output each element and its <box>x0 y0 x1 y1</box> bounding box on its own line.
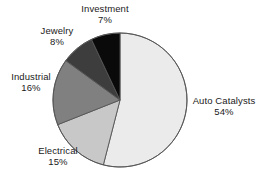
pie-label-auto-catalysts: Auto Catalysts 54% <box>182 95 266 117</box>
pie-label-industrial-percent: 16% <box>0 82 62 93</box>
pie-label-jewelry-name: Jewelry <box>23 25 91 36</box>
pie-label-jewelry: Jewelry 8% <box>23 25 91 47</box>
pie-label-jewelry-percent: 8% <box>23 36 91 47</box>
pie-label-investment-name: Investment <box>62 3 148 14</box>
pie-chart: Investment 7% Jewelry 8% Industrial 16% … <box>0 0 266 182</box>
pie-label-electrical: Electrical 15% <box>22 145 94 167</box>
pie-label-auto-catalysts-name: Auto Catalysts <box>182 95 266 106</box>
pie-label-industrial-name: Industrial <box>0 71 62 82</box>
pie-label-auto-catalysts-percent: 54% <box>182 106 266 117</box>
pie-label-electrical-percent: 15% <box>22 156 94 167</box>
pie-label-electrical-name: Electrical <box>22 145 94 156</box>
pie-label-investment-percent: 7% <box>62 14 148 25</box>
pie-label-investment: Investment 7% <box>62 3 148 25</box>
pie-label-industrial: Industrial 16% <box>0 71 62 93</box>
